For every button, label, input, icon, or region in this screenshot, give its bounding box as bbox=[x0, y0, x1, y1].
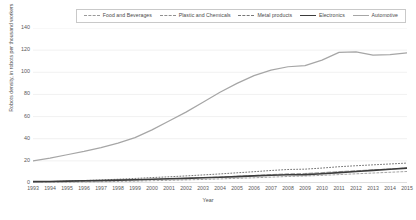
legend-line-swatch-food-and-beverages bbox=[84, 15, 100, 16]
series-line-automotive bbox=[33, 52, 407, 161]
x-tick-label: 2015 bbox=[401, 186, 413, 191]
plot-area bbox=[33, 28, 407, 183]
legend-item-automotive[interactable]: Automotive bbox=[353, 13, 398, 18]
x-tick-label: 1999 bbox=[129, 186, 141, 191]
x-axis-title: Year bbox=[0, 198, 416, 203]
y-axis-title: Robots density, in robots per thousand w… bbox=[9, 0, 14, 118]
legend-line-swatch-plastic-and-chemicals bbox=[160, 15, 176, 16]
x-tick-label: 2007 bbox=[265, 186, 277, 191]
legend-line-swatch-electronics bbox=[300, 15, 316, 16]
y-tick-label: 140 bbox=[21, 25, 30, 30]
series-lines bbox=[33, 52, 407, 183]
legend-item-plastic-and-chemicals[interactable]: Plastic and Chemicals bbox=[160, 13, 231, 18]
x-tick-label: 2006 bbox=[248, 186, 260, 191]
legend-item-electronics[interactable]: Electronics bbox=[300, 13, 345, 18]
legend-item-metal-products[interactable]: Metal products bbox=[238, 13, 292, 18]
x-tick-label: 1993 bbox=[27, 186, 39, 191]
x-tick-label: 2008 bbox=[282, 186, 294, 191]
legend-label-electronics: Electronics bbox=[319, 13, 345, 18]
x-axis-tick-labels: 1993199419951996199719981999200020012002… bbox=[33, 186, 407, 195]
x-tick-label: 1997 bbox=[95, 186, 107, 191]
x-tick-label: 2009 bbox=[299, 186, 311, 191]
legend-label-automotive: Automotive bbox=[372, 13, 398, 18]
legend-label-metal-products: Metal products bbox=[257, 13, 292, 18]
x-tick-label: 1996 bbox=[78, 186, 90, 191]
x-tick-label: 2003 bbox=[197, 186, 209, 191]
legend-item-food-and-beverages[interactable]: Food and Beverages bbox=[84, 13, 152, 18]
legend-line-swatch-automotive bbox=[353, 15, 369, 16]
y-tick-label: 60 bbox=[24, 114, 30, 119]
legend-line-swatch-metal-products bbox=[238, 15, 254, 16]
x-tick-label: 2005 bbox=[231, 186, 243, 191]
x-tick-label: 2001 bbox=[163, 186, 175, 191]
y-tick-label: 40 bbox=[24, 136, 30, 141]
x-tick-label: 1998 bbox=[112, 186, 124, 191]
x-tick-label: 1995 bbox=[61, 186, 73, 191]
x-tick-label: 2000 bbox=[146, 186, 158, 191]
gridlines bbox=[33, 28, 407, 183]
chart-legend: Food and Beverages Plastic and Chemicals… bbox=[76, 9, 406, 23]
x-tick-label: 2012 bbox=[350, 186, 362, 191]
y-tick-label: 120 bbox=[21, 47, 30, 52]
x-tick-label: 2002 bbox=[180, 186, 192, 191]
y-tick-label: 80 bbox=[24, 92, 30, 97]
y-tick-label: 20 bbox=[24, 158, 30, 163]
x-tick-label: 2013 bbox=[367, 186, 379, 191]
x-tick-label: 2014 bbox=[384, 186, 396, 191]
x-tick-label: 2004 bbox=[214, 186, 226, 191]
x-tick-label: 2011 bbox=[333, 186, 344, 191]
x-tick-label: 1994 bbox=[44, 186, 56, 191]
legend-label-plastic-and-chemicals: Plastic and Chemicals bbox=[179, 13, 231, 18]
plot-svg bbox=[33, 28, 407, 183]
x-tick-label: 2010 bbox=[316, 186, 328, 191]
legend-label-food-and-beverages: Food and Beverages bbox=[103, 13, 152, 18]
series-line-electronics bbox=[33, 168, 407, 182]
robot-density-line-chart: Food and Beverages Plastic and Chemicals… bbox=[0, 0, 416, 220]
y-tick-label: 100 bbox=[21, 70, 30, 75]
